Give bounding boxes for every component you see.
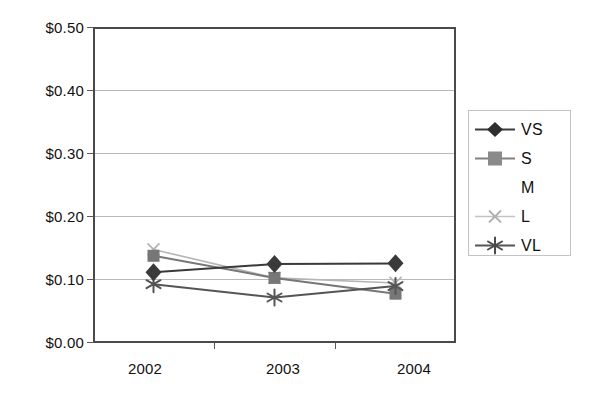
legend-key-asterisk-icon — [469, 231, 521, 260]
legend-item-m: M — [469, 173, 572, 202]
legend-label-l: L — [521, 209, 530, 225]
y-axis-tick-label: $0.30 — [10, 145, 84, 162]
legend-label-s: S — [521, 151, 532, 167]
legend-key-x-icon — [469, 202, 521, 231]
y-axis-tick-label: $0.50 — [10, 19, 84, 36]
legend-label-vs: VS — [521, 122, 543, 138]
y-axis-tick-label: $0.40 — [10, 82, 84, 99]
x-axis-tick-mark — [214, 343, 215, 349]
x-axis-tick-mark — [335, 343, 336, 349]
legend-item-vl: VL — [469, 231, 572, 260]
y-axis-tick-label: $0.00 — [10, 334, 84, 351]
x-axis-tick-label: 2004 — [369, 360, 459, 377]
legend-item-vs: VS — [469, 115, 572, 144]
line-chart: $0.50 $0.40 $0.30 $0.20 $0.10 $0.00 2002… — [0, 0, 597, 405]
x-axis-tick-label: 2003 — [238, 360, 328, 377]
legend-label-m: M — [521, 180, 535, 196]
legend-key-square-icon — [469, 144, 521, 173]
legend-key-diamond-icon — [469, 115, 521, 144]
y-axis-tick-label: $0.10 — [10, 271, 84, 288]
legend-item-l: L — [469, 202, 572, 231]
legend-key-none-icon — [469, 173, 521, 202]
x-axis-tick-label: 2002 — [100, 360, 190, 377]
y-axis-tick-label: $0.20 — [10, 208, 84, 225]
chart-legend: VS S M — [468, 110, 571, 256]
legend-label-vl: VL — [521, 238, 541, 254]
legend-item-s: S — [469, 144, 572, 173]
plot-area — [93, 27, 456, 343]
